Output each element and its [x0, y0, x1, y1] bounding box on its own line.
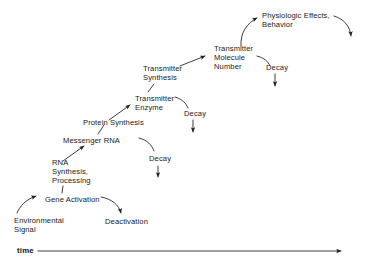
time-axis-label: time: [17, 246, 34, 255]
node-decay-messenger-rna: Decay: [149, 154, 171, 163]
edge-enzyme-to-synthesis: [148, 84, 154, 92]
node-protein-synthesis: Protein Synthesis: [83, 118, 144, 127]
node-messenger-rna: Messenger RNA: [63, 136, 120, 145]
node-transmitter-molecule-number: Transmitter Molecule Number: [214, 44, 253, 72]
node-deactivation: Deactivation: [105, 217, 148, 226]
edge-gene-to-rna: [62, 186, 63, 193]
edge-synthesis-to-molecule: [180, 56, 205, 66]
node-environmental-signal: Environmental Signal: [14, 216, 64, 234]
node-rna-synthesis-processing: RNA Synthesis, Processing: [52, 158, 91, 186]
node-physiologic-effects-behavior: Physiologic Effects, Behavior: [262, 11, 330, 29]
edge-molecule-to-effects: [241, 18, 257, 46]
edge-mrna-to-decay: [139, 138, 154, 151]
edge-effects-decay: [334, 16, 351, 36]
flow-diagram: Environmental Signal Gene Activation Dea…: [0, 0, 365, 272]
node-transmitter-enzyme: Transmitter Enzyme: [135, 94, 174, 112]
edge-gene-to-deactivation: [101, 197, 121, 213]
edge-enzyme-to-decay: [175, 97, 188, 108]
node-transmitter-synthesis: Transmitter Synthesis: [143, 64, 182, 82]
node-decay-transmitter-molecule: Decay: [266, 63, 288, 72]
node-decay-transmitter-enzyme: Decay: [184, 109, 206, 118]
node-gene-activation: Gene Activation: [45, 195, 100, 204]
edge-signal-to-gene: [17, 196, 36, 213]
